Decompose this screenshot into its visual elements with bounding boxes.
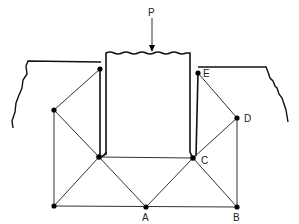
node-left-bottom [51, 203, 56, 208]
node-B [234, 204, 239, 209]
node-label-B: B [233, 212, 240, 223]
member-cleft-leftbottom [54, 157, 99, 206]
node-left-top [97, 66, 102, 71]
node-C [190, 155, 196, 161]
member-cleft-A [99, 157, 146, 207]
diagram-svg: P A B C D E [0, 0, 299, 224]
member-A-C [146, 158, 193, 207]
node-label-C: C [201, 155, 208, 166]
load-label: P [148, 7, 155, 18]
right-post [196, 73, 198, 156]
node-c-left [96, 154, 102, 160]
member-C-B [193, 158, 237, 207]
member-E-D [198, 73, 237, 118]
node-label-A: A [142, 212, 149, 223]
node-label-D: D [244, 113, 251, 124]
node-D [234, 115, 239, 120]
member-C-D [193, 118, 237, 158]
node-left-mid [51, 107, 56, 112]
right-ground-outline [198, 67, 288, 122]
member-block-bottom [99, 157, 193, 158]
left-ground-outline [12, 61, 101, 128]
node-A [143, 204, 148, 209]
member-lefttop-leftmid [54, 69, 100, 110]
load-arrow-head [149, 45, 155, 52]
load-block [106, 52, 194, 158]
member-leftmid-cleft [54, 110, 99, 157]
truss-diagram: P A B C D E [0, 0, 299, 224]
node-label-E: E [203, 68, 210, 79]
node-E [195, 70, 200, 75]
